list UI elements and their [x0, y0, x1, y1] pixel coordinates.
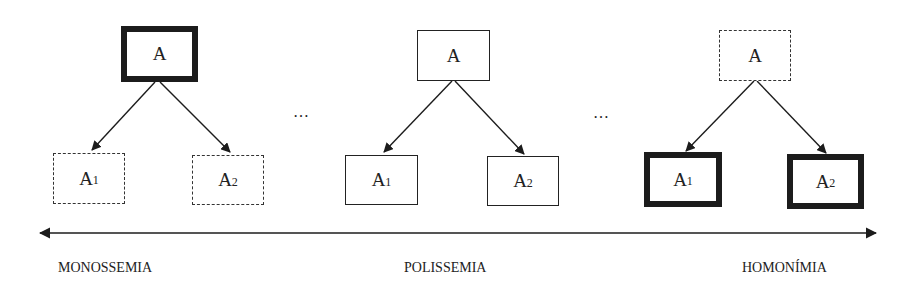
box-label: A [79, 168, 93, 190]
ellipsis-2: … [593, 104, 610, 122]
box-label: A [153, 43, 167, 65]
monossemia-child-box-1: A1 [53, 153, 125, 204]
box-label: A [218, 169, 232, 191]
box-label: A [447, 45, 461, 67]
arrow-a-to-a2 [160, 82, 230, 152]
polissemia-child-box-1: A1 [345, 155, 418, 205]
box-subscript: 2 [527, 176, 533, 191]
box-label: A [372, 169, 386, 191]
arrow-a-to-a1 [686, 81, 754, 151]
box-subscript: 2 [232, 175, 238, 190]
box-subscript: 1 [687, 174, 693, 189]
polissemia-parent-box: A [417, 30, 490, 81]
box-label: A [673, 169, 687, 191]
box-subscript: 1 [93, 173, 99, 188]
box-label: A [513, 170, 527, 192]
box-subscript: 2 [829, 176, 835, 191]
arrow-a-to-a1 [92, 82, 155, 150]
ellipsis-1: … [293, 103, 310, 121]
box-subscript: 1 [385, 175, 391, 190]
label-polissemia: POLISSEMIA [404, 260, 486, 276]
arrow-a-to-a2 [757, 81, 826, 153]
homonimia-parent-box: A [719, 30, 791, 81]
homonimia-child-box-1: A1 [644, 152, 722, 207]
box-label: A [816, 171, 830, 193]
monossemia-parent-box: A [121, 26, 198, 82]
arrow-a-to-a1 [384, 81, 452, 152]
homonimia-child-box-2: A2 [787, 154, 864, 209]
polissemia-child-box-2: A2 [487, 156, 559, 206]
box-label: A [748, 45, 762, 67]
monossemia-child-box-2: A2 [192, 155, 264, 205]
label-monossemia: MONOSSEMIA [58, 260, 152, 276]
arrow-a-to-a2 [455, 81, 524, 154]
label-homonimia: HOMONÍMIA [742, 260, 827, 276]
